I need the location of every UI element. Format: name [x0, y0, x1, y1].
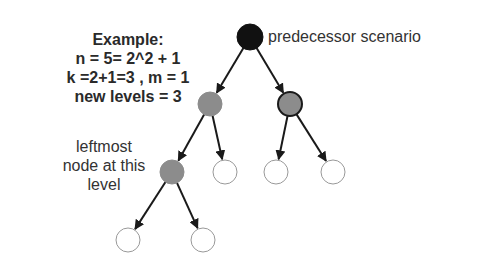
tree-node-l3a: [160, 160, 184, 184]
edge-arrow: [177, 183, 198, 228]
predecessor-scenario-label: predecessor scenario: [268, 28, 421, 46]
tree-node-l3d: [321, 160, 345, 184]
tree-node-l4a: [116, 228, 140, 252]
tree-node-l3b: [213, 160, 237, 184]
leftmost-label-line: leftmost: [50, 137, 158, 156]
edge-arrow: [217, 47, 244, 93]
leftmost-label-line: node at this: [50, 156, 158, 175]
edge-arrow: [178, 114, 204, 160]
leftmost-label-line: level: [50, 175, 158, 194]
tree-node-l3c: [264, 160, 288, 184]
tree-node-l2b: [278, 92, 302, 116]
tree-node-root: [237, 24, 263, 50]
example-title: Example:: [48, 30, 208, 49]
example-line-k-m: k =2+1=3 , m = 1: [48, 68, 208, 87]
edge-arrow: [213, 116, 223, 160]
edge-arrow: [279, 116, 288, 160]
leftmost-node-label: leftmost node at this level: [50, 137, 158, 194]
example-line-n: n = 5= 2^2 + 1: [48, 49, 208, 68]
edge-arrow: [296, 114, 326, 161]
tree-node-l4b: [191, 228, 215, 252]
example-text: Example: n = 5= 2^2 + 1 k =2+1=3 , m = 1…: [48, 30, 208, 106]
example-line-levels: new levels = 3: [48, 87, 208, 106]
edge-arrow: [256, 47, 283, 93]
